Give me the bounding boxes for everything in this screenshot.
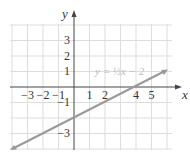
svg-text:−1: −1	[57, 95, 70, 109]
svg-text:1: 1	[87, 88, 93, 102]
svg-text:3: 3	[64, 33, 70, 47]
x-axis-arrow-icon	[175, 85, 182, 90]
svg-text:−3: −3	[57, 126, 70, 140]
axes	[10, 14, 178, 150]
svg-text:−2: −2	[37, 88, 50, 102]
y-axis-label: y	[60, 6, 68, 21]
svg-text:5: 5	[149, 88, 155, 102]
svg-text:4: 4	[133, 88, 139, 102]
x-tick-labels: −3 −2 −1 1 2 4 5	[21, 88, 154, 102]
y-axis-arrow-icon	[72, 10, 77, 17]
svg-text:2: 2	[64, 49, 70, 63]
svg-text:−3: −3	[21, 88, 34, 102]
graph: x y −3 −2 −1 1 2 4 5 3 2 1 −1 −3 y = ½x …	[0, 0, 190, 159]
svg-text:1: 1	[64, 64, 70, 78]
x-axis-label: x	[181, 87, 188, 102]
equation-label: y = ½x − 2	[94, 65, 145, 77]
